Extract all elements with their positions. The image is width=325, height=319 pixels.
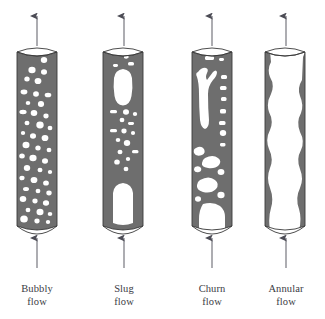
pipe-slug: [103, 16, 143, 268]
label-annular-line1: Annular: [241, 283, 325, 296]
pipe-bubbly: [17, 16, 57, 268]
label-bubbly-flow: Bubbly flow: [0, 283, 82, 308]
label-bubbly-line2: flow: [0, 296, 82, 309]
label-bubbly-line1: Bubbly: [0, 283, 82, 296]
label-slug-line2: flow: [79, 296, 169, 309]
flow-regime-svg: [0, 0, 325, 319]
pipe-annular: [265, 16, 305, 268]
flow-regime-diagram: Bubbly flow Slug flow Churn flow Annular…: [0, 0, 325, 319]
label-slug-flow: Slug flow: [79, 283, 169, 308]
label-annular-line2: flow: [241, 296, 325, 309]
label-slug-line1: Slug: [79, 283, 169, 296]
label-annular-flow: Annular flow: [241, 283, 325, 308]
pipe-churn: [192, 16, 232, 268]
